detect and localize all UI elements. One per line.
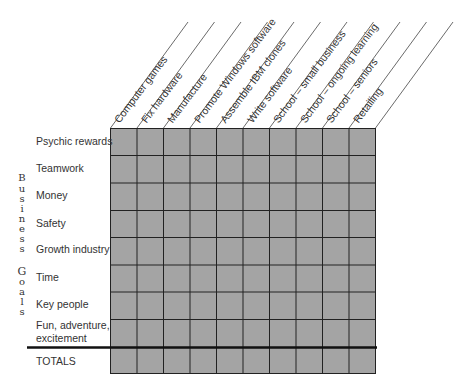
side-label-letter: B	[17, 172, 27, 183]
row-label-growth-industry: Growth industry	[36, 243, 110, 255]
row-label-safety: Safety	[36, 217, 66, 229]
row-label-key-people: Key people	[36, 298, 89, 310]
side-label-letter: s	[17, 306, 27, 317]
row-label-excitement: excitement	[36, 332, 87, 344]
row-label-fun-adventure: Fun, adventure,	[36, 319, 110, 331]
row-label-psychic-rewards: Psychic rewards	[36, 135, 112, 147]
row-label-teamwork: Teamwork	[36, 162, 84, 174]
row-label-money: Money	[36, 189, 68, 201]
side-label-letter: s	[17, 243, 27, 254]
row-label-time: Time	[36, 271, 59, 283]
row-label-totals: TOTALS	[36, 355, 76, 367]
